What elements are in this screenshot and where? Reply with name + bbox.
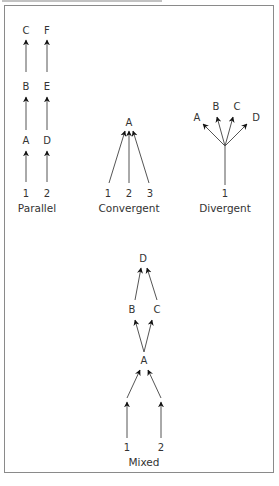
caption-convergent: Convergent xyxy=(98,202,159,214)
arrow-A-to-B xyxy=(135,320,144,352)
source-1: 1 xyxy=(222,188,228,199)
node-B: B xyxy=(23,81,30,92)
node-C: C xyxy=(154,304,161,315)
caption-parallel: Parallel xyxy=(18,202,56,214)
arrow-A-to-C xyxy=(144,320,152,352)
source-3: 3 xyxy=(147,188,153,199)
node-C: C xyxy=(234,101,241,112)
node-A: A xyxy=(141,355,148,366)
node-E: E xyxy=(44,81,50,92)
source-2: 2 xyxy=(158,442,164,453)
node-D: D xyxy=(252,112,260,123)
node-D: D xyxy=(43,135,51,146)
panel-mixed: D B C A 1 2 Mixed xyxy=(124,253,164,468)
node-A: A xyxy=(23,135,30,146)
arrow-1-to-A xyxy=(109,131,125,183)
arrow-C-to-D xyxy=(147,268,157,300)
panel-parallel: C F B E A D 1 2 Parallel xyxy=(18,25,56,214)
node-D: D xyxy=(139,253,147,264)
node-F: F xyxy=(44,25,50,36)
source-1: 1 xyxy=(23,188,29,199)
diagram-canvas: C F B E A D 1 2 Parallel A 1 2 3 Converg… xyxy=(0,0,279,486)
caption-divergent: Divergent xyxy=(199,202,251,214)
node-A: A xyxy=(194,112,201,123)
source-2: 2 xyxy=(126,188,132,199)
arrow-3-to-A xyxy=(133,131,149,183)
source-1: 1 xyxy=(124,442,130,453)
panel-divergent: A B C D 1 Divergent xyxy=(194,101,261,214)
arrow-2b-to-A xyxy=(148,370,161,398)
source-1: 1 xyxy=(105,188,111,199)
node-C: C xyxy=(23,25,30,36)
panel-convergent: A 1 2 3 Convergent xyxy=(98,117,159,214)
node-A: A xyxy=(126,117,133,128)
node-B: B xyxy=(213,101,220,112)
caption-mixed: Mixed xyxy=(129,456,160,468)
arrow-B-to-D xyxy=(135,268,141,300)
source-2: 2 xyxy=(44,188,50,199)
node-B: B xyxy=(129,304,136,315)
arrow-1b-to-A xyxy=(127,370,140,398)
